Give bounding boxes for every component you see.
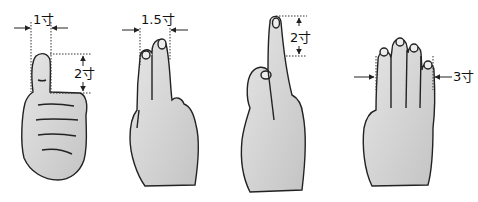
thumb-length-label: 2寸	[74, 67, 95, 80]
finger-cun-diagram: 1寸 2寸 1.5寸 2寸 3寸	[0, 0, 478, 202]
two-fingers-width-label: 1.5寸	[141, 13, 175, 26]
one-finger-length-label: 2寸	[290, 31, 311, 44]
four-fingers-width-label: 3寸	[453, 70, 474, 83]
illustration-canvas	[0, 0, 478, 202]
thumb-width-label: 1寸	[33, 13, 54, 26]
four-fingers-hand-icon	[363, 38, 434, 186]
